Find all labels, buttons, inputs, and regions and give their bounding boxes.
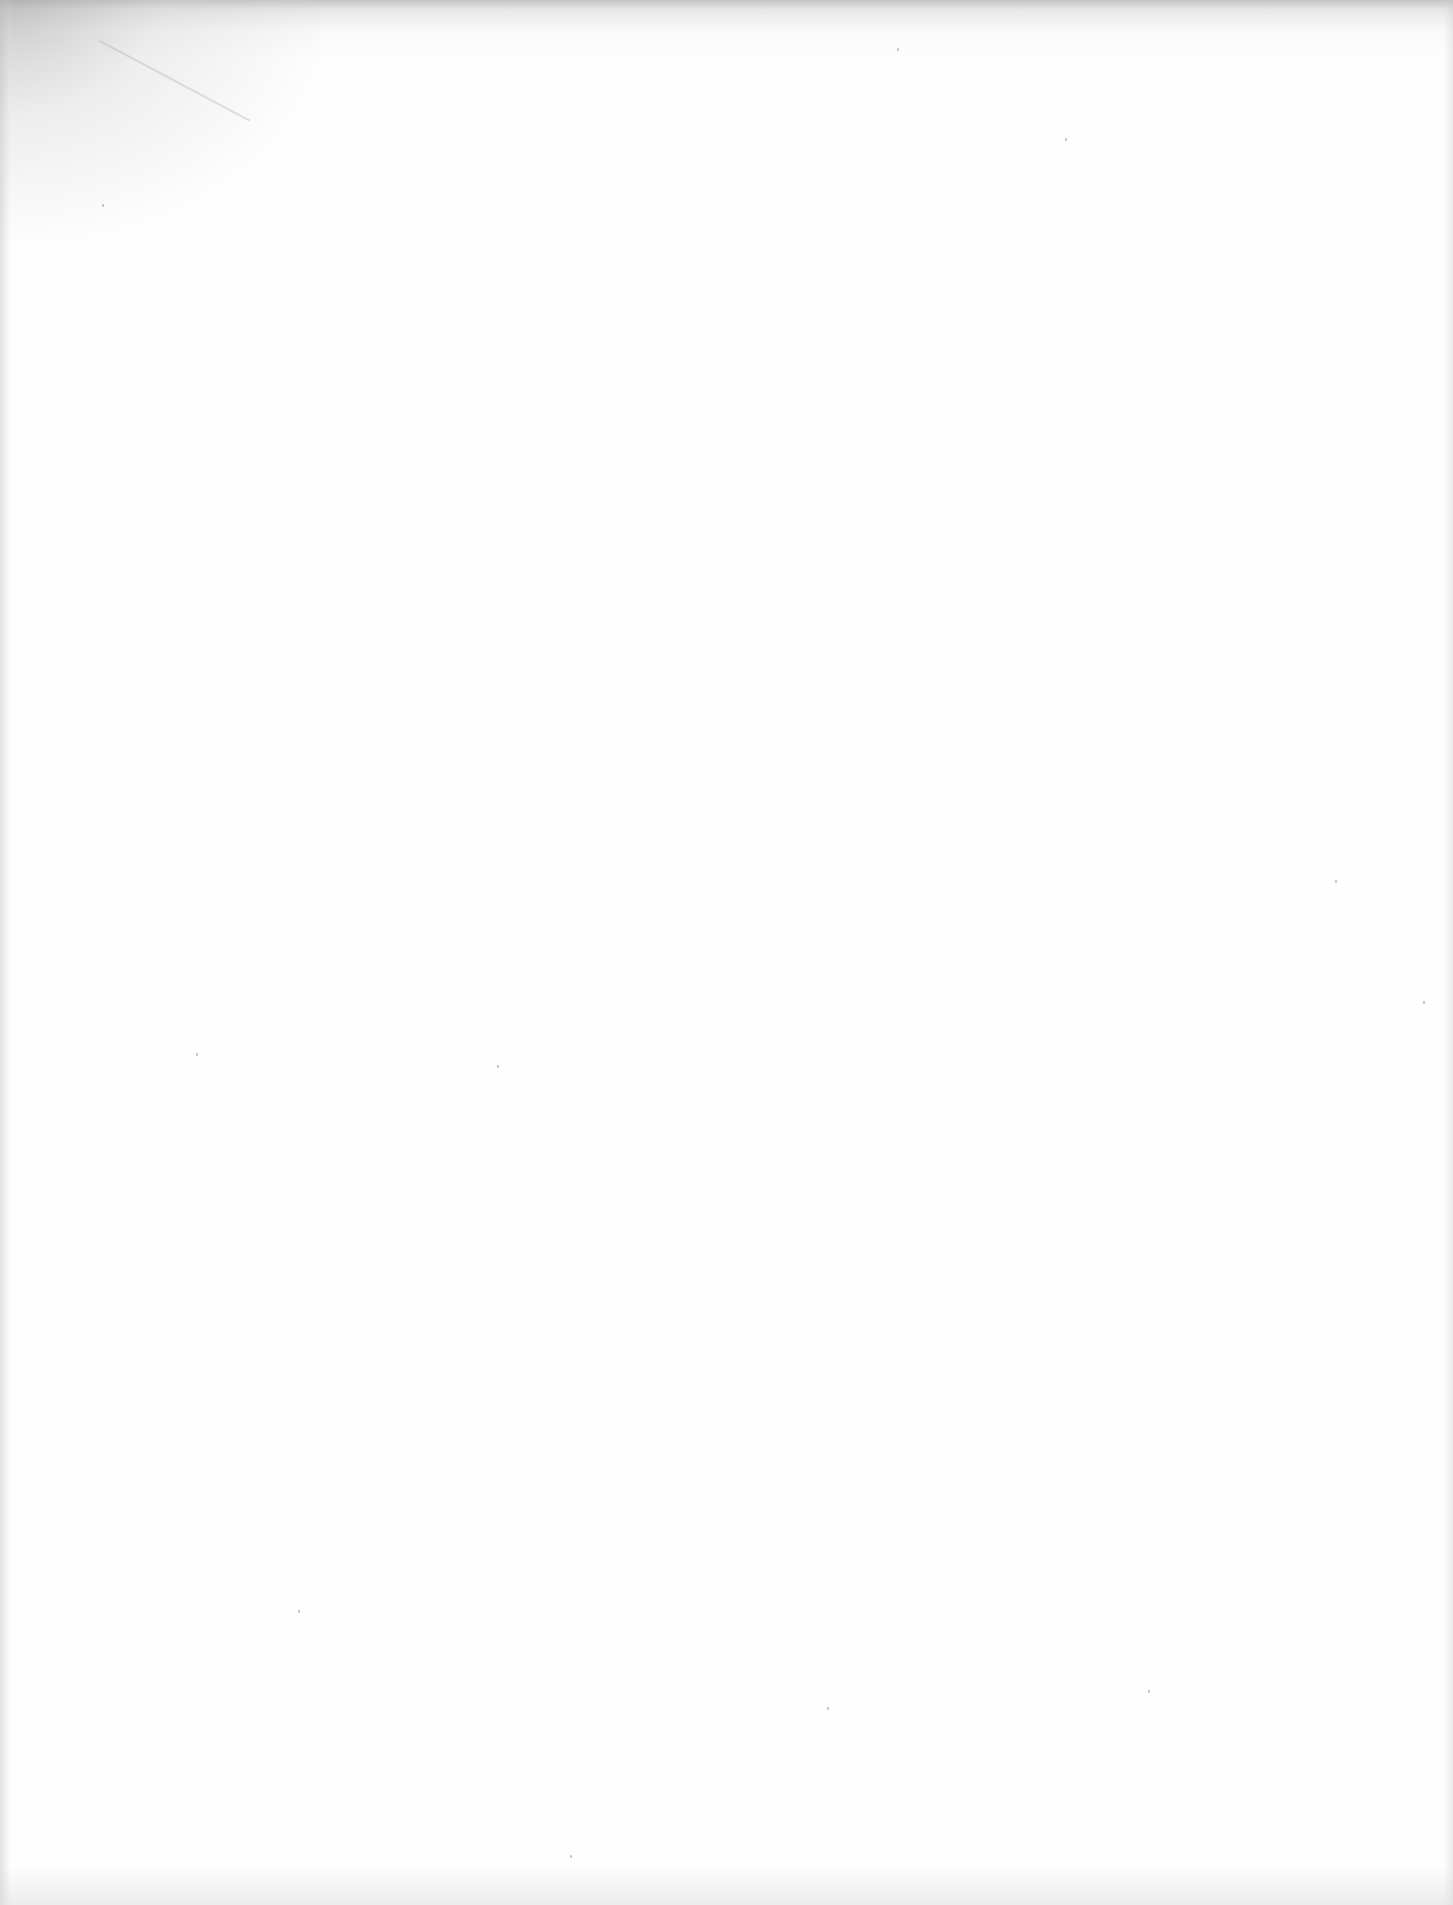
scan-speck — [1423, 1001, 1425, 1004]
scan-speck — [102, 204, 104, 207]
scan-speck — [897, 48, 899, 51]
scan-speck — [827, 1707, 829, 1710]
scan-speck — [1335, 880, 1337, 883]
scan-speck — [196, 1053, 198, 1056]
scan-edge-right-shading — [1443, 0, 1453, 1905]
scan-speck — [1148, 1690, 1150, 1693]
scan-speck — [570, 1855, 572, 1858]
scan-edge-bottom-shading — [0, 1865, 1453, 1905]
scan-speck — [1065, 138, 1067, 141]
scan-edge-left-shading — [0, 0, 14, 1905]
scan-speck — [497, 1065, 499, 1068]
scan-corner-shading — [0, 0, 320, 240]
scan-speck — [298, 1610, 300, 1613]
blank-scanned-page — [0, 0, 1453, 1905]
